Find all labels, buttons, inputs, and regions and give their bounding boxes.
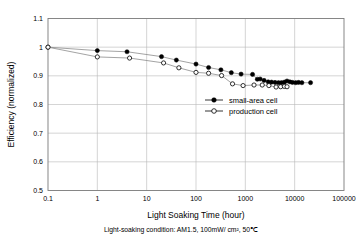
data-point [260, 83, 264, 87]
x-tick-label: 1000 [238, 195, 254, 202]
x-tick-label: 10000 [285, 195, 305, 202]
x-axis-title: Light Soaking Time (hour) [147, 210, 244, 220]
data-point [125, 50, 129, 54]
data-point [127, 56, 131, 60]
chart-figure: 0.1110100100010000100000 0.50.60.70.80.9… [0, 0, 362, 243]
data-point [194, 70, 198, 74]
chart-legend: small-area cellproduction cell [205, 96, 278, 116]
data-point [229, 71, 233, 75]
y-tick-label: 1 [39, 44, 43, 51]
data-point [250, 72, 254, 76]
open-circle-icon [212, 109, 217, 114]
x-tick-label: 100 [190, 195, 202, 202]
data-point [219, 68, 223, 72]
data-point [194, 62, 198, 66]
legend-item-small-area-cell: small-area cell [205, 96, 278, 105]
data-point [174, 58, 178, 62]
data-point [161, 61, 165, 65]
data-point [300, 81, 304, 85]
data-point [95, 55, 99, 59]
x-tick-label: 100000 [332, 195, 355, 202]
y-tick-label: 0.5 [33, 187, 43, 194]
data-point [206, 65, 210, 69]
figure-caption: Light-soaking condition: AM1.5, 100mW/ c… [104, 226, 258, 234]
x-tick-label: 0.1 [43, 195, 53, 202]
data-point [252, 83, 256, 87]
data-point [95, 49, 99, 53]
data-point [241, 83, 245, 87]
data-point [258, 77, 262, 81]
data-point [308, 81, 312, 85]
x-tick-label: 1 [95, 195, 99, 202]
y-axis-title: Efficiency (normalized) [6, 61, 16, 147]
data-point [274, 85, 278, 89]
y-tick-label: 0.6 [33, 158, 43, 165]
data-point [159, 55, 163, 59]
data-series-group [46, 45, 313, 89]
x-axis-tick-labels: 0.1110100100010000100000 [43, 195, 356, 202]
legend-label: production cell [229, 107, 278, 116]
y-tick-label: 0.8 [33, 101, 43, 108]
data-point [267, 83, 271, 87]
series-production-cell [46, 45, 289, 89]
efficiency-vs-light-soaking-time-chart: 0.1110100100010000100000 0.50.60.70.80.9… [0, 0, 362, 243]
y-axis-tick-labels: 0.50.60.70.80.911.1 [33, 15, 43, 194]
legend-label: small-area cell [229, 96, 278, 105]
data-point [239, 72, 243, 76]
y-tick-label: 0.9 [33, 72, 43, 79]
data-point [219, 73, 223, 77]
data-point [177, 66, 181, 70]
legend-item-production-cell: production cell [205, 107, 278, 116]
data-point [230, 82, 234, 86]
data-point [262, 78, 266, 82]
series-small-area-cell [46, 45, 313, 85]
y-tick-label: 1.1 [33, 15, 43, 22]
data-point [46, 45, 50, 49]
x-tick-label: 10 [143, 195, 151, 202]
filled-circle-icon [212, 98, 217, 103]
y-tick-label: 0.7 [33, 130, 43, 137]
data-point [206, 71, 210, 75]
data-point [285, 85, 289, 89]
grid-lines [48, 19, 344, 191]
